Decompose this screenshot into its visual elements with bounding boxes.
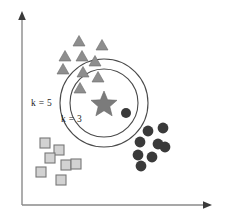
circle-point — [133, 150, 144, 161]
triangle-point — [76, 51, 88, 62]
square-point — [45, 153, 55, 163]
triangle-point — [92, 72, 104, 83]
circle-point — [147, 152, 158, 163]
square-point — [56, 175, 66, 185]
k3-label: k = 3 — [61, 114, 82, 124]
square-point — [36, 167, 46, 177]
triangle-point — [59, 51, 71, 62]
triangle-point — [73, 36, 85, 47]
triangle-point — [77, 67, 89, 78]
k5-label: k = 5 — [31, 98, 52, 108]
circle-point — [135, 137, 146, 148]
x-axis-arrow-icon — [203, 201, 212, 209]
circle-point — [143, 126, 154, 137]
circle-point — [158, 123, 169, 134]
query-star-marker — [91, 91, 117, 116]
square-class-group — [36, 138, 81, 185]
triangle-point — [57, 64, 69, 75]
square-point — [40, 138, 50, 148]
circle-point — [136, 161, 147, 172]
square-point — [61, 160, 71, 170]
square-point — [71, 159, 81, 169]
circle-point — [121, 108, 131, 118]
knn-diagram: k = 5 k = 3 — [0, 0, 225, 222]
knn-plot-svg: k = 5 k = 3 — [0, 0, 225, 222]
y-axis-arrow-icon — [18, 11, 26, 20]
triangle-point — [96, 40, 108, 51]
circle-point — [160, 142, 171, 153]
